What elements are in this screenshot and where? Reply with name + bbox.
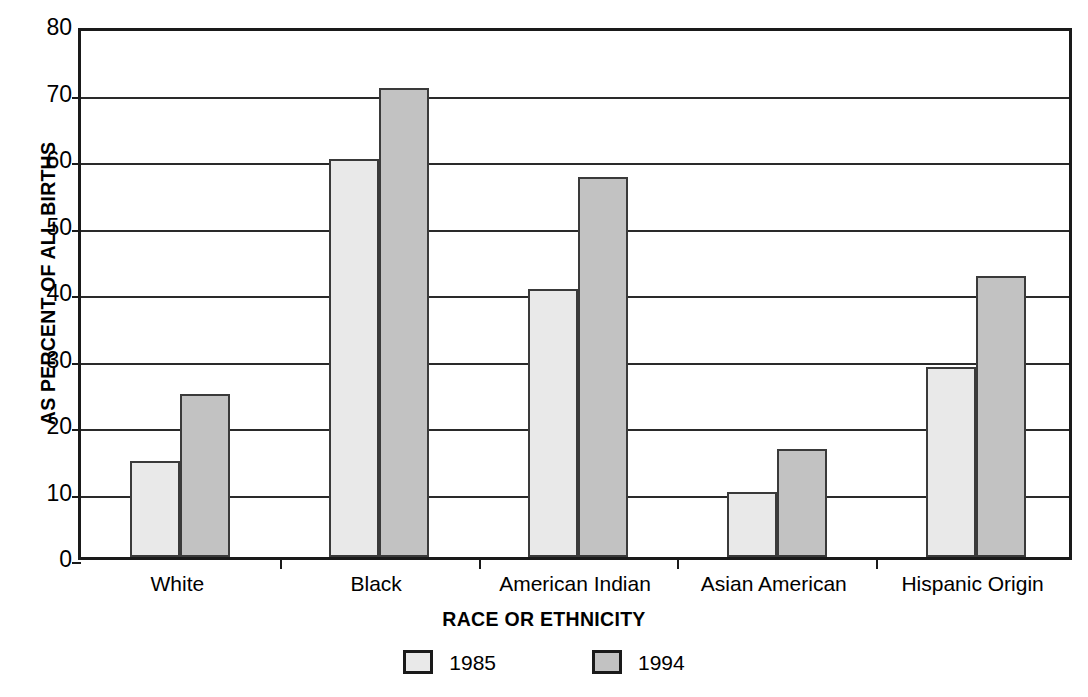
bar-asian-american-1994[interactable] bbox=[777, 449, 827, 557]
y-axis-tick-label: 0 bbox=[26, 548, 72, 571]
y-axis-tick-label: 60 bbox=[26, 149, 72, 172]
legend-item-1985[interactable]: 1985 bbox=[403, 650, 496, 674]
y-axis-tick-label: 40 bbox=[26, 282, 72, 305]
bar-hispanic-origin-1985[interactable] bbox=[926, 367, 976, 557]
legend-label-1985: 1985 bbox=[449, 652, 496, 673]
bar-asian-american-1985[interactable] bbox=[727, 492, 777, 557]
x-axis-title: RACE OR ETHNICITY bbox=[0, 608, 1088, 631]
y-axis-tick-label: 10 bbox=[26, 482, 72, 505]
y-axis-tick-mark bbox=[72, 163, 81, 165]
x-axis-category-label: American Indian bbox=[499, 572, 651, 596]
x-axis-tick-mark bbox=[677, 557, 679, 569]
x-axis-category-label: Asian American bbox=[701, 572, 847, 596]
x-axis-category-label: Black bbox=[351, 572, 402, 596]
y-axis-tick-label: 20 bbox=[26, 415, 72, 438]
bar-hispanic-origin-1994[interactable] bbox=[976, 276, 1026, 557]
legend-label-1994: 1994 bbox=[638, 652, 685, 673]
bar-black-1985[interactable] bbox=[329, 159, 379, 557]
y-axis-tick-label: 80 bbox=[26, 16, 72, 39]
y-axis-tick-mark bbox=[72, 429, 81, 431]
gridline bbox=[81, 163, 1069, 165]
bar-american-indian-1985[interactable] bbox=[528, 289, 578, 557]
y-axis-tick-label: 50 bbox=[26, 216, 72, 239]
gridline bbox=[81, 230, 1069, 232]
bar-white-1994[interactable] bbox=[180, 394, 230, 557]
chart-page: AS PERCENT OF ALL BIRTHS 010203040506070… bbox=[0, 0, 1088, 697]
legend-item-1994[interactable]: 1994 bbox=[592, 650, 685, 674]
x-axis-tick-mark bbox=[876, 557, 878, 569]
legend-swatch-1985 bbox=[403, 650, 433, 674]
y-axis-tick-mark bbox=[72, 562, 81, 564]
plot-area bbox=[78, 28, 1072, 560]
x-axis-tick-mark bbox=[479, 557, 481, 569]
legend-swatch-1994 bbox=[592, 650, 622, 674]
y-axis-tick-labels: 01020304050607080 bbox=[20, 0, 72, 697]
x-axis-category-label: White bbox=[151, 572, 205, 596]
chart-legend: 19851994 bbox=[0, 650, 1088, 674]
gridline bbox=[81, 97, 1069, 99]
y-axis-tick-mark bbox=[72, 230, 81, 232]
bar-american-indian-1994[interactable] bbox=[578, 177, 628, 557]
x-axis-category-label: Hispanic Origin bbox=[901, 572, 1043, 596]
bar-black-1994[interactable] bbox=[379, 88, 429, 557]
y-axis-tick-mark bbox=[72, 496, 81, 498]
y-axis-tick-mark bbox=[72, 363, 81, 365]
x-axis-tick-mark bbox=[280, 557, 282, 569]
y-axis-tick-mark bbox=[72, 296, 81, 298]
bar-white-1985[interactable] bbox=[130, 461, 180, 557]
y-axis-tick-label: 70 bbox=[26, 83, 72, 106]
y-axis-tick-label: 30 bbox=[26, 349, 72, 372]
y-axis-tick-mark bbox=[72, 97, 81, 99]
